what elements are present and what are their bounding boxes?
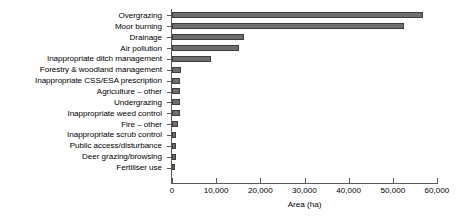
category-label: Air pollution: [120, 44, 162, 53]
y-tick-mark: [167, 37, 171, 38]
bar: [172, 34, 244, 40]
x-tick-label: 50,000: [380, 186, 405, 196]
y-tick-mark: [167, 26, 171, 27]
bar: [172, 88, 180, 94]
x-tick-mark: [393, 178, 394, 183]
category-label-row: Agriculture – other: [0, 86, 166, 97]
x-tick-mark: [437, 178, 438, 183]
bar-row: [172, 151, 437, 162]
category-label-row: Moor burning: [0, 21, 166, 32]
category-label: Inappropriate weed control: [67, 109, 162, 118]
bar-row: [172, 86, 437, 97]
y-tick-mark: [167, 157, 171, 158]
category-label-row: Overgrazing: [0, 10, 166, 21]
y-tick-mark: [167, 146, 171, 147]
category-label: Inappropriate CSS/ESA prescription: [35, 76, 162, 85]
bar: [172, 99, 180, 105]
x-axis-title: Area (ha): [171, 200, 438, 210]
category-label: Inappropriate ditch management: [47, 54, 162, 63]
x-tick-mark: [172, 178, 173, 183]
category-label: Overgrazing: [118, 11, 162, 20]
category-label: Agriculture – other: [97, 87, 162, 96]
x-tick-mark: [260, 178, 261, 183]
bar-row: [172, 32, 437, 43]
bar: [172, 143, 176, 149]
bar: [172, 56, 211, 62]
bar-row: [172, 21, 437, 32]
x-tick-label: 0: [170, 186, 175, 196]
bar-row: [172, 162, 437, 173]
category-label-row: Inappropriate weed control: [0, 108, 166, 119]
category-label: Public access/disturbance: [70, 141, 162, 150]
x-tick-label: 20,000: [248, 186, 273, 196]
x-tick-label: 40,000: [336, 186, 361, 196]
bar: [172, 12, 423, 18]
bar-row: [172, 64, 437, 75]
x-tick-label: 60,000: [425, 186, 450, 196]
bar-chart: Overgrazing Moor burning Drainage Air po…: [0, 0, 458, 221]
bar-row: [172, 129, 437, 140]
category-label-row: Public access/disturbance: [0, 140, 166, 151]
bar-row: [172, 119, 437, 130]
y-tick-mark: [167, 59, 171, 60]
x-tick-mark: [216, 178, 217, 183]
y-tick-mark: [167, 124, 171, 125]
bar: [172, 132, 176, 138]
bar: [172, 23, 404, 29]
x-axis-line: [171, 183, 438, 184]
y-axis-line: [171, 9, 172, 184]
category-label: Deer grazing/browsing: [82, 152, 162, 161]
category-label-row: Deer grazing/browsing: [0, 151, 166, 162]
bar: [172, 45, 239, 51]
category-label-row: Drainage: [0, 32, 166, 43]
category-label-row: Fire – other: [0, 119, 166, 130]
y-tick-mark: [167, 135, 171, 136]
category-axis-labels: Overgrazing Moor burning Drainage Air po…: [0, 10, 166, 173]
bar-row: [172, 43, 437, 54]
category-label-row: Air pollution: [0, 43, 166, 54]
y-tick-mark: [167, 113, 171, 114]
y-tick-mark: [167, 81, 171, 82]
bar: [172, 67, 181, 73]
x-tick-label: 10,000: [204, 186, 229, 196]
category-label: Forestry & woodland management: [40, 65, 162, 74]
category-label: Fire – other: [121, 120, 162, 129]
bar: [172, 154, 176, 160]
category-label-row: Forestry & woodland management: [0, 64, 166, 75]
x-tick-mark: [305, 178, 306, 183]
bar: [172, 110, 180, 116]
bar-row: [172, 10, 437, 21]
y-tick-mark: [167, 48, 171, 49]
y-tick-mark: [167, 92, 171, 93]
bar: [172, 78, 180, 84]
bars-layer: [172, 10, 437, 173]
category-label: Inappropriate scrub control: [67, 130, 162, 139]
y-tick-mark: [167, 168, 171, 169]
x-tick-label: 30,000: [292, 186, 317, 196]
bar: [172, 164, 175, 170]
category-label: Undergrazing: [114, 98, 162, 107]
category-label-row: Inappropriate scrub control: [0, 129, 166, 140]
category-label-row: Fertiliser use: [0, 162, 166, 173]
category-label: Fertiliser use: [116, 163, 162, 172]
y-tick-mark: [167, 102, 171, 103]
y-tick-mark: [167, 15, 171, 16]
plot-area: [172, 10, 437, 173]
bar-row: [172, 140, 437, 151]
category-label-row: Undergrazing: [0, 97, 166, 108]
bar-row: [172, 53, 437, 64]
bar-row: [172, 108, 437, 119]
category-label-row: Inappropriate CSS/ESA prescription: [0, 75, 166, 86]
category-label: Moor burning: [115, 22, 162, 31]
category-label-row: Inappropriate ditch management: [0, 53, 166, 64]
bar-row: [172, 97, 437, 108]
y-tick-mark: [167, 70, 171, 71]
bar-row: [172, 75, 437, 86]
category-label: Drainage: [130, 33, 162, 42]
bar: [172, 121, 178, 127]
x-tick-mark: [349, 178, 350, 183]
